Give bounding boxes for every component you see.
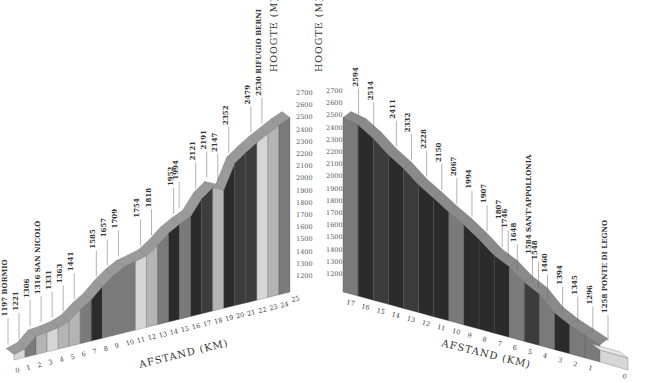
y-tick-label: 1800 [326,197,343,205]
x-tick-label: 19 [224,313,234,323]
x-tick-label: 7 [92,347,98,356]
elevation-annotation: 2352 [221,105,230,125]
elevation-annotation: 1585 [88,229,97,249]
x-tick-label: 10 [451,327,461,337]
elevation-annotation: 1460 [540,253,549,273]
x-tick-label: 5 [527,348,533,357]
x-tick-label: 8 [103,344,109,353]
x-tick-label: 22 [257,305,267,315]
elevation-segment [373,138,388,304]
y-tick-label: 1200 [296,272,313,280]
elevation-profile-chart: 0123456789101112131415161718192021222324… [0,0,648,383]
x-tick-label: 10 [125,338,135,348]
elevation-segment [388,155,403,309]
y-tick-label: 2700 [326,87,343,95]
x-tick-label: 1 [587,364,593,373]
elevation-annotation: 1394 [555,265,564,285]
y-tick-label: 2600 [326,99,343,107]
elevation-segment [268,125,279,297]
x-tick-label: 25 [291,294,301,304]
y-tick-label: 1800 [296,199,313,207]
x-tick-label: 11 [136,335,146,345]
elevation-annotation: 1746 [500,208,509,228]
elevation-segment [279,118,290,295]
y-tick-label: 2100 [326,160,343,168]
y-tick-label: 2500 [326,111,343,119]
x-tick-label: 3 [557,356,563,365]
x-tick-label: 13 [158,330,168,340]
x-tick-label: 14 [391,311,401,321]
elevation-annotation: 1441 [66,252,75,272]
elevation-segment [403,168,418,312]
x-tick-label: 12 [421,319,431,329]
x-tick-label: 0 [15,366,21,375]
x-tick-label: 2 [37,361,43,370]
elevation-annotation: 2332 [403,113,412,133]
y-tick-label: 1500 [296,235,313,243]
x-tick-label: 14 [169,327,179,337]
elevation-annotation: 1994 [464,169,473,189]
elevation-annotation: 2479 [243,85,252,105]
y-tick-label: 1200 [326,270,343,278]
y-tick-label: 2000 [326,172,343,180]
y-tick-label: 2300 [326,136,343,144]
x-tick-label: 6 [512,343,518,352]
elevation-annotation: 2191 [199,130,208,150]
y-tick-label: 2500 [296,113,313,121]
elevation-annotation: 1331 [44,270,53,290]
x-tick-label: 24 [280,300,290,310]
elevation-annotation: 1754 [132,198,141,218]
elevation-segment [358,125,373,300]
elevation-annotation: 1818 [144,188,153,208]
y-tick-label: 2400 [296,126,313,134]
x-tick-label: 15 [180,324,190,334]
x-tick-label: 20 [235,311,245,321]
y-tick-label: 2700 [296,89,313,97]
x-tick-label: 2 [572,360,578,369]
elevation-segment [434,198,449,321]
y-tick-label: 1300 [326,258,343,266]
x-tick-label: 7 [497,339,503,348]
x-tick-label: 9 [114,342,120,351]
x-tick-label: 3 [48,358,54,367]
elevation-segment [235,152,246,305]
x-tick-label: 8 [482,335,488,344]
elevation-segment [158,233,169,325]
left-x-axis-label: AFSTAND (KM) [137,337,230,370]
x-tick-label: 16 [361,302,371,312]
x-tick-label: 17 [346,298,356,308]
elevation-annotation: 2150 [434,142,443,162]
x-tick-label: 17 [202,319,212,329]
elevation-annotation: 1306 [22,278,31,298]
y-tick-label: 2200 [326,148,343,156]
elevation-annotation: 2530 RIFUGIO BERNI [254,9,263,96]
y-tick-label: 2600 [296,101,313,109]
y-tick-label: 1900 [326,185,343,193]
elevation-annotation: 1363 [55,264,64,284]
elevation-annotation: 1258 PONTE DI LEGNO [600,220,609,313]
y-tick-label: 2100 [296,162,313,170]
elevation-segment [124,261,135,333]
elevation-segment [464,225,479,329]
x-tick-label: 4 [59,355,65,364]
x-tick-label: 12 [147,333,157,343]
elevation-annotation: 2121 [188,141,197,161]
left-y-axis-label: HOOGTE (M) [268,0,279,72]
elevation-annotation: 1584 SANT'APPOLLONIA [524,154,533,254]
y-tick-label: 2300 [296,138,313,146]
y-tick-label: 1700 [296,211,313,219]
right-elevation-profile: 1716151413121110987654321012001300140015… [326,67,628,381]
elevation-annotation: 2228 [419,129,428,149]
left-elevation-profile: 0123456789101112131415161718192021222324… [0,9,313,375]
elevation-annotation: 1657 [99,218,108,238]
x-tick-label: 6 [81,350,87,359]
y-tick-label: 1600 [296,223,313,231]
y-tick-label: 2400 [326,124,343,132]
elevation-annotation: 1548 [530,240,539,260]
x-tick-label: 1 [26,363,32,372]
elevation-segment [494,255,509,337]
elevation-segment [343,118,358,297]
elevation-segment [479,239,494,333]
y-tick-label: 1500 [326,233,343,241]
elevation-segment [191,199,202,317]
